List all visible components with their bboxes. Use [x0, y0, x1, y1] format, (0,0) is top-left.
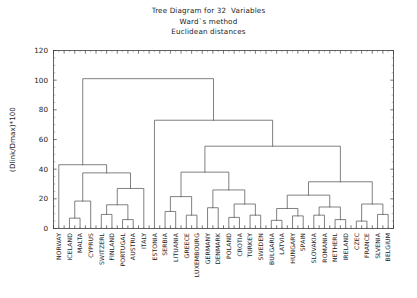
leaf-label: HUNGARY [289, 233, 296, 264]
dendrogram-link [309, 182, 373, 204]
dendrogram-link [117, 188, 144, 228]
leaf-label: SERBIA [161, 232, 168, 255]
dendrogram-link [83, 173, 131, 201]
dendrogram-link [154, 120, 272, 228]
dendrogram-chart: Tree Diagram for 32 Variables Ward`s met… [0, 0, 417, 298]
leaf-label: POLAND [225, 233, 232, 259]
leaf-label: IRELAND [342, 233, 349, 261]
dendrogram-plot: 020406080100120 NORWAYICELANDMALTACYPRUS… [0, 0, 417, 298]
leaf-label: AUSTRIA [129, 232, 136, 260]
dendrogram-link [362, 204, 383, 221]
y-tick-label: 40 [39, 165, 49, 174]
leaf-label: TURKEY [246, 233, 253, 259]
dendrogram-links [59, 79, 388, 229]
leaf-label: BELGIUM [384, 233, 391, 261]
leaf-label: ICELAND [66, 233, 73, 261]
leaf-label: ROMANIA [321, 232, 328, 262]
y-tick-label: 80 [39, 105, 49, 114]
dendrogram-link [83, 79, 214, 165]
leaf-label: NETHERL [331, 233, 338, 262]
leaf-label: FRANCE [363, 233, 370, 258]
dendrogram-link [205, 146, 340, 182]
leaf-labels: NORWAYICELANDMALTACYPRUSSWITZERLFINLANDP… [55, 232, 391, 277]
dendrogram-link [213, 190, 245, 208]
leaf-label: SWITZERL [98, 233, 105, 265]
dendrogram-link [287, 195, 330, 208]
leaf-label: MALTA [76, 232, 83, 253]
leaf-label: DENMARK [214, 232, 221, 264]
leaf-label: CROTIA [236, 232, 243, 256]
axis-ticks [54, 51, 394, 229]
leaf-label: SWEDEN [257, 233, 264, 260]
y-axis: 020406080100120 [34, 46, 48, 233]
y-tick-label: 120 [34, 46, 48, 55]
leaf-label: SLVENIA [374, 232, 381, 259]
leaf-label: CYPRUS [87, 233, 94, 258]
dendrogram-link [75, 201, 91, 228]
leaf-label: BULGARIA [268, 232, 275, 265]
y-tick-label: 100 [34, 76, 48, 85]
plot-frame [54, 51, 394, 229]
leaf-label: FINLAND [108, 233, 115, 261]
leaf-label: SPAIN [299, 233, 306, 251]
dendrogram-link [277, 208, 298, 220]
y-tick-label: 20 [39, 194, 49, 203]
dendrogram-link [319, 207, 340, 220]
y-tick-label: 0 [43, 224, 48, 233]
dendrogram-link [170, 197, 191, 216]
dendrogram-link [107, 205, 128, 220]
y-tick-label: 60 [39, 135, 49, 144]
leaf-label: PORTUGAL [119, 232, 126, 266]
leaf-label: LITUANIA [172, 232, 179, 262]
leaf-label: LUXEMBOURG [193, 233, 200, 277]
leaf-label: ESTONIA [151, 232, 158, 260]
y-axis-title: (Dlink/Dmax)*100 [8, 107, 17, 172]
leaf-label: GREECE [183, 233, 190, 258]
leaf-label: GERMANY [204, 233, 211, 264]
dendrogram-link [181, 172, 229, 196]
leaf-label: LATVIA [278, 232, 285, 254]
leaf-label: SLOVAKIA [310, 232, 317, 263]
y-axis-title-text: (Dlink/Dmax)*100 [8, 107, 17, 172]
leaf-label: CZEC [353, 233, 360, 250]
leaf-label: ITALY [140, 233, 147, 249]
leaf-label: NORWAY [55, 233, 62, 260]
